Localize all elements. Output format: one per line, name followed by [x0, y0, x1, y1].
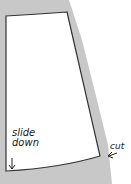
slide-label-line2: down [12, 138, 39, 148]
cut-label: cut [110, 141, 124, 151]
slide-down-label: slide down [12, 128, 39, 148]
diagram-svg [0, 0, 131, 184]
cut-arrow-icon [108, 152, 117, 158]
pattern-diagram: slide down cut [0, 0, 131, 184]
